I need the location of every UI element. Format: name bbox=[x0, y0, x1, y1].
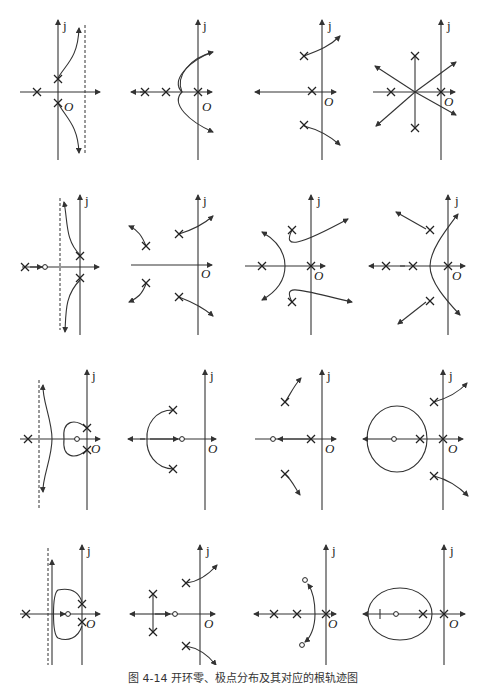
panel-11: j O bbox=[255, 368, 336, 510]
panel-3: j O bbox=[255, 18, 340, 160]
panel-5: j bbox=[21, 193, 99, 335]
svg-text:j: j bbox=[454, 193, 459, 208]
panel-12: j O bbox=[363, 368, 468, 510]
svg-text:j: j bbox=[202, 193, 207, 208]
svg-text:O: O bbox=[202, 99, 212, 114]
panel-2: j O bbox=[131, 18, 213, 160]
svg-text:j: j bbox=[86, 543, 91, 558]
svg-text:j: j bbox=[449, 543, 454, 558]
svg-text:O: O bbox=[448, 441, 458, 456]
svg-text:O: O bbox=[201, 266, 211, 281]
panel-10: j O bbox=[128, 368, 218, 510]
svg-text:O: O bbox=[314, 268, 324, 283]
svg-text:O: O bbox=[449, 616, 459, 631]
svg-text:O: O bbox=[444, 94, 454, 109]
svg-text:j: j bbox=[205, 543, 210, 558]
panel-16: j O bbox=[363, 543, 465, 665]
svg-text:j: j bbox=[331, 543, 336, 558]
svg-text:j: j bbox=[209, 368, 214, 383]
svg-text:O: O bbox=[86, 616, 96, 631]
svg-text:O: O bbox=[324, 94, 334, 109]
svg-text:O: O bbox=[204, 616, 214, 631]
svg-text:j: j bbox=[446, 18, 451, 33]
panel-7: j O bbox=[245, 193, 352, 335]
panel-6: j O bbox=[129, 193, 213, 335]
svg-text:O: O bbox=[325, 441, 335, 456]
svg-text:j: j bbox=[316, 193, 321, 208]
root-locus-figure: j O j O j O j O bbox=[0, 0, 486, 665]
svg-text:O: O bbox=[452, 268, 462, 283]
svg-text:O: O bbox=[208, 441, 218, 456]
svg-text:O: O bbox=[91, 441, 101, 456]
svg-text:j: j bbox=[202, 18, 207, 33]
panel-14: j O bbox=[130, 543, 217, 665]
svg-text:j: j bbox=[62, 18, 67, 33]
svg-text:j: j bbox=[327, 18, 332, 33]
svg-text:j: j bbox=[91, 368, 96, 383]
svg-text:j: j bbox=[326, 368, 331, 383]
svg-text:j: j bbox=[448, 368, 453, 383]
panel-13: j O bbox=[20, 543, 100, 665]
panel-1: j O bbox=[20, 18, 100, 160]
panel-4: j O bbox=[373, 18, 456, 160]
panel-8: j O bbox=[369, 193, 465, 335]
figure-caption: 图 4-14 开环零、极点分布及其对应的根轨迹图 bbox=[0, 669, 486, 685]
svg-text:j: j bbox=[84, 193, 89, 208]
panel-15: j O bbox=[254, 543, 338, 665]
panel-9: j O bbox=[20, 368, 101, 510]
svg-text:O: O bbox=[64, 99, 74, 114]
